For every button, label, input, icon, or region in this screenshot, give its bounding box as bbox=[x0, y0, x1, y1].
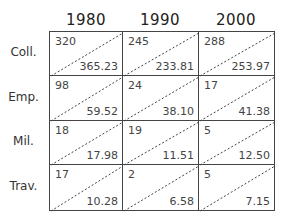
table-cell: 320365.23 bbox=[49, 31, 123, 76]
expected-value: 41.38 bbox=[239, 105, 271, 118]
expected-value: 38.10 bbox=[163, 105, 195, 118]
expected-value: 233.81 bbox=[156, 60, 195, 73]
observed-value: 17 bbox=[55, 168, 69, 181]
observed-value: 5 bbox=[204, 168, 211, 181]
table-cell: 512.50 bbox=[198, 120, 275, 165]
expected-value: 253.97 bbox=[232, 60, 271, 73]
column-header-1990: 1990 bbox=[123, 11, 197, 29]
row-header-coll: Coll. bbox=[0, 45, 47, 59]
expected-value: 10.28 bbox=[87, 195, 119, 208]
observed-value: 288 bbox=[204, 35, 225, 48]
observed-value: 320 bbox=[55, 35, 76, 48]
table-cell: 288253.97 bbox=[198, 31, 275, 76]
table-cell: 2438.10 bbox=[122, 75, 199, 121]
observed-value: 18 bbox=[55, 124, 69, 137]
observed-value: 2 bbox=[128, 168, 135, 181]
table-cell: 1710.28 bbox=[49, 164, 123, 211]
expected-value: 17.98 bbox=[87, 149, 119, 162]
table-cell: 1817.98 bbox=[49, 120, 123, 165]
observed-value: 245 bbox=[128, 35, 149, 48]
table-cell: 9859.52 bbox=[49, 75, 123, 121]
column-header-1980: 1980 bbox=[49, 11, 123, 29]
observed-value: 98 bbox=[55, 79, 69, 92]
row-header-mil: Mil. bbox=[0, 134, 47, 148]
table-cell: 1741.38 bbox=[198, 75, 275, 121]
observed-value: 24 bbox=[128, 79, 142, 92]
table-cell: 1911.51 bbox=[122, 120, 199, 165]
row-header-emp: Emp. bbox=[0, 90, 47, 104]
observed-value: 19 bbox=[128, 124, 142, 137]
expected-value: 6.58 bbox=[170, 195, 195, 208]
table-cell: 26.58 bbox=[122, 164, 199, 211]
observed-value: 5 bbox=[204, 124, 211, 137]
expected-value: 59.52 bbox=[87, 105, 119, 118]
expected-value: 12.50 bbox=[239, 149, 271, 162]
table-cell: 57.15 bbox=[198, 164, 275, 211]
expected-value: 7.15 bbox=[246, 195, 271, 208]
expected-value: 365.23 bbox=[80, 60, 119, 73]
table-cell: 245233.81 bbox=[122, 31, 199, 76]
row-header-trav: Trav. bbox=[0, 179, 47, 193]
table-grid: 320365.23245233.81288253.979859.522438.1… bbox=[49, 31, 274, 210]
column-header-2000: 2000 bbox=[199, 11, 273, 29]
expected-value: 11.51 bbox=[163, 149, 195, 162]
observed-value: 17 bbox=[204, 79, 218, 92]
